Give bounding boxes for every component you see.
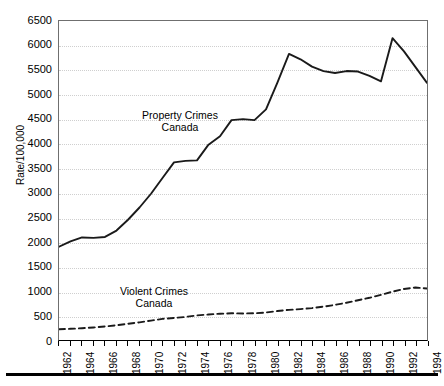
x-axis-ticks — [58, 341, 428, 347]
x-axis-tick-label: 1970 — [155, 352, 165, 374]
y-axis-tick-label: 1000 — [6, 286, 52, 297]
property-annotation-line1: Property Crimes — [105, 109, 255, 121]
x-axis-tick-label: 1990 — [386, 352, 396, 374]
x-axis-tick-label: 1976 — [224, 352, 234, 374]
y-axis-tick-label: 2500 — [6, 212, 52, 223]
violent-crimes-annotation: Violent Crimes Canada — [79, 285, 229, 309]
x-axis-tick-label: 1964 — [86, 352, 96, 374]
y-axis-tick-label: 3500 — [6, 163, 52, 174]
x-axis-tick — [185, 341, 186, 346]
x-axis-tick-labels: 1962196419661968197019721974197619781980… — [58, 348, 428, 374]
x-axis-tick-label: 1994 — [433, 352, 443, 374]
x-axis-tick — [104, 341, 105, 346]
x-axis-tick — [58, 341, 59, 346]
x-axis-tick — [405, 341, 406, 346]
x-axis-tick-label: 1982 — [294, 352, 304, 374]
x-axis-tick-label: 1988 — [363, 352, 373, 374]
x-axis-tick — [416, 341, 417, 346]
x-axis-tick — [81, 341, 82, 346]
y-axis-tick-label: 1500 — [6, 261, 52, 272]
x-axis-tick — [231, 341, 232, 346]
x-axis-tick — [428, 341, 429, 346]
x-axis-tick-label: 1984 — [317, 352, 327, 374]
x-axis-tick — [289, 341, 290, 346]
y-axis-tick-label: 6000 — [6, 39, 52, 50]
violent-annotation-line2: Canada — [79, 297, 229, 309]
y-axis-tick-label: 4000 — [6, 138, 52, 149]
x-axis-tick — [127, 341, 128, 346]
x-axis-tick — [220, 341, 221, 346]
x-axis-tick — [116, 341, 117, 346]
x-axis-tick-label: 1992 — [409, 352, 419, 374]
x-axis-tick-label: 1986 — [340, 352, 350, 374]
x-axis-tick — [359, 341, 360, 346]
y-axis-tick-label: 0 — [6, 336, 52, 347]
violent-annotation-line1: Violent Crimes — [79, 285, 229, 297]
y-axis-tick-label: 2000 — [6, 237, 52, 248]
x-axis-tick — [255, 341, 256, 346]
x-axis-tick — [139, 341, 140, 346]
x-axis-tick — [162, 341, 163, 346]
x-axis-tick-label: 1972 — [178, 352, 188, 374]
x-axis-tick-label: 1966 — [109, 352, 119, 374]
y-axis-tick-label: 3000 — [6, 187, 52, 198]
x-axis-tick — [301, 341, 302, 346]
x-axis-tick-label: 1980 — [271, 352, 281, 374]
property-crimes-line — [59, 38, 427, 247]
x-axis-tick — [382, 341, 383, 346]
x-axis-tick — [393, 341, 394, 346]
y-axis-tick-labels: 0500100015002000250030003500400045005000… — [4, 0, 52, 386]
y-axis-tick-label: 500 — [6, 311, 52, 322]
y-axis-tick-label: 5000 — [6, 89, 52, 100]
y-axis-title: Rate/100,000 — [16, 90, 26, 220]
plot-area: Property Crimes Canada Violent Crimes Ca… — [58, 20, 428, 341]
x-axis-tick — [208, 341, 209, 346]
x-axis-tick — [243, 341, 244, 346]
x-axis-tick — [312, 341, 313, 346]
x-axis-tick — [197, 341, 198, 346]
y-axis-tick-label: 6500 — [6, 15, 52, 26]
x-axis-tick-label: 1974 — [201, 352, 211, 374]
x-axis-tick — [324, 341, 325, 346]
x-axis-tick-label: 1962 — [63, 352, 73, 374]
crime-rate-chart: 0500100015002000250030003500400045005000… — [0, 0, 444, 386]
x-axis-tick — [370, 341, 371, 346]
bottom-divider — [6, 373, 438, 376]
x-axis-tick — [278, 341, 279, 346]
x-axis-tick — [93, 341, 94, 346]
x-axis-tick — [70, 341, 71, 346]
x-axis-tick — [266, 341, 267, 346]
x-axis-tick-label: 1968 — [132, 352, 142, 374]
y-axis-tick-label: 4500 — [6, 113, 52, 124]
y-axis-tick-label: 5500 — [6, 64, 52, 75]
x-axis-tick — [336, 341, 337, 346]
x-axis-tick — [174, 341, 175, 346]
property-annotation-line2: Canada — [105, 121, 255, 133]
x-axis-tick — [347, 341, 348, 346]
x-axis-tick — [151, 341, 152, 346]
property-crimes-annotation: Property Crimes Canada — [105, 109, 255, 133]
x-axis-tick-label: 1978 — [248, 352, 258, 374]
